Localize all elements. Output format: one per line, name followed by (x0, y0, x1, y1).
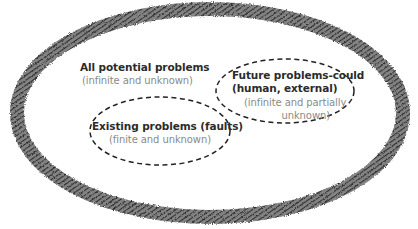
existing-set-label: Existing problems (faults) (finite and u… (92, 120, 228, 146)
outer-set-subtitle: (infinite and unknown) (82, 74, 209, 87)
future-set-subtitle-line1: (infinite and partially (244, 96, 344, 109)
existing-set-subtitle: (finite and unknown) (92, 133, 228, 146)
diagram-canvas (0, 0, 418, 229)
future-set-title-line1: Future problems-could (232, 69, 364, 82)
future-set-subtitle-line2: unknown) (244, 109, 344, 122)
future-set-label: Future problems-could (human, external) (232, 69, 364, 95)
outer-set-title: All potential problems (80, 61, 209, 74)
future-set-subtitle-block: (infinite and partially unknown) (244, 96, 344, 122)
existing-set-title: Existing problems (faults) (92, 120, 228, 133)
outer-set-label: All potential problems (infinite and unk… (80, 61, 209, 87)
outer-set-border (17, 9, 403, 217)
future-set-title-line2: (human, external) (232, 82, 364, 95)
